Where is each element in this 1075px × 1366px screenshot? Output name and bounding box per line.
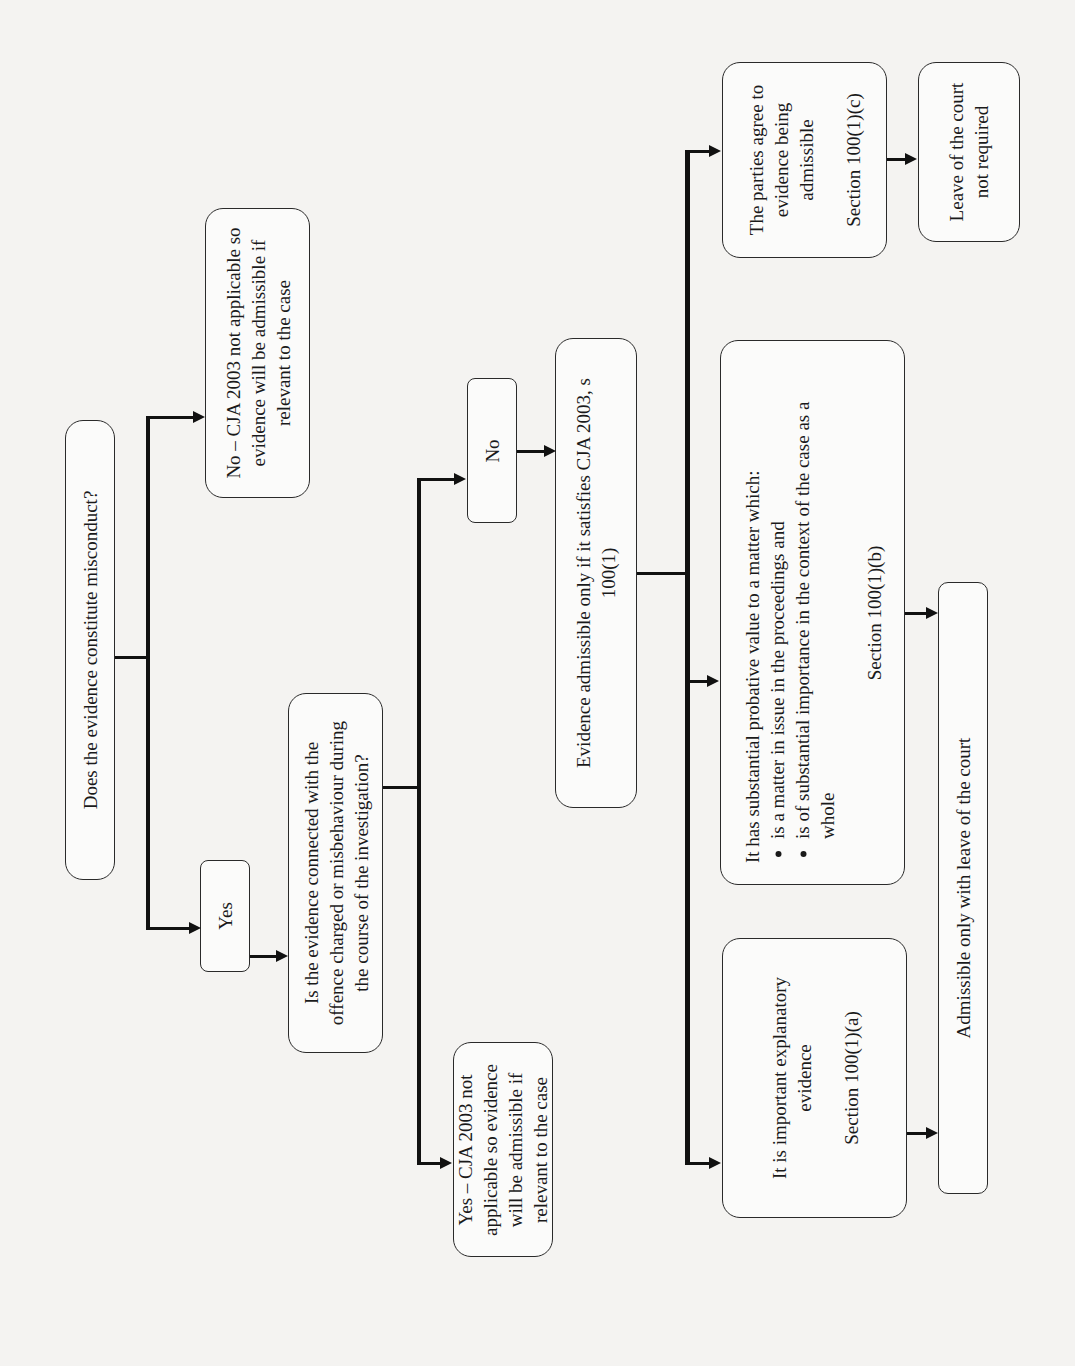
arrow-head-icon [189, 922, 201, 934]
connector [907, 1132, 927, 1135]
connector [383, 786, 419, 789]
node-leave-required: Admissible only with leave of the court [938, 582, 988, 1194]
node-no-cja-not-applicable: No – CJA 2003 not applicable so evidence… [205, 208, 310, 498]
connector [146, 416, 194, 419]
bullet-item: is of substantial importance in the cont… [789, 363, 839, 839]
connector [685, 150, 710, 153]
bullet-item: is a matter in issue in the proceedings … [764, 363, 789, 839]
arrow-head-icon [709, 1157, 721, 1169]
node-option-c-parties-agree: The parties agree to evidence being admi… [722, 62, 887, 258]
arrow-head-icon [709, 145, 721, 157]
connector [146, 927, 190, 930]
arrow-head-icon [926, 1127, 938, 1139]
connector [685, 680, 708, 683]
arrow-head-icon [544, 445, 556, 457]
node-yes-cja-not-applicable: Yes – CJA 2003 not applicable so evidenc… [453, 1042, 553, 1257]
connector [685, 1162, 710, 1165]
section-ref: Section 100(1)(b) [861, 363, 886, 863]
arrow-head-icon [193, 411, 205, 423]
connector [905, 612, 927, 615]
connector [637, 572, 687, 575]
node-s100-admissible-only-if: Evidence admissible only if it satisfies… [555, 338, 637, 808]
node-constitutes-misconduct: Does the evidence constitute misconduct? [65, 420, 115, 880]
section-ref: Section 100(1)(a) [838, 953, 863, 1203]
arrow-head-icon [707, 675, 719, 687]
node-label: Yes – CJA 2003 not applicable so evidenc… [453, 1050, 553, 1250]
connector [250, 955, 277, 958]
node-label: Admissible only with leave of the court [951, 738, 976, 1039]
node-label: The parties agree to evidence being admi… [746, 85, 817, 235]
arrow-head-icon [276, 950, 288, 962]
node-label: Evidence admissible only if it satisfies… [571, 353, 621, 793]
arrow-head-icon [440, 1157, 452, 1169]
connector [417, 478, 421, 1164]
connector [517, 450, 545, 453]
arrow-head-icon [926, 607, 938, 619]
node-leave-not-required: Leave of the court not required [918, 62, 1020, 242]
node-label: Yes [213, 902, 238, 930]
arrow-head-icon [905, 153, 917, 165]
node-yes-1: Yes [200, 860, 250, 972]
node-label: Is the evidence connected with the offen… [298, 713, 373, 1033]
node-label: It is important explanatory evidence [768, 977, 814, 1179]
node-label: Leave of the court not required [944, 77, 994, 227]
connector [887, 158, 906, 161]
node-label: Does the evidence constitute misconduct? [78, 491, 103, 810]
connector [417, 1162, 441, 1165]
connector [115, 656, 148, 659]
connector [685, 150, 690, 1164]
connector [146, 416, 150, 930]
node-label: It has substantial probative value to a … [741, 470, 762, 863]
node-label: No – CJA 2003 not applicable so evidence… [220, 223, 295, 483]
node-connected-with-offence: Is the evidence connected with the offen… [288, 693, 383, 1053]
node-no-2: No [467, 378, 517, 523]
arrow-head-icon [454, 473, 466, 485]
node-option-b-probative: It has substantial probative value to a … [720, 340, 905, 885]
section-ref: Section 100(1)(c) [841, 70, 866, 250]
node-option-a-explanatory: It is important explanatory evidence Sec… [722, 938, 907, 1218]
node-label: No [480, 439, 505, 462]
connector [417, 478, 455, 481]
